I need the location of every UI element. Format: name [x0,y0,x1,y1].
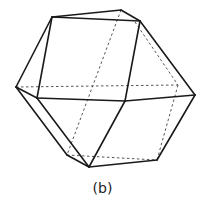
hidden-edges [16,10,178,160]
edge-e-j [37,98,89,167]
figure-caption: (b) [0,180,205,196]
edge-a-d [16,17,52,87]
edge-a-b [52,10,121,17]
edge-b-c [121,10,140,21]
edge-a-c [52,17,140,21]
polyhedron-diagram [0,0,205,205]
edge-c-f [125,21,140,101]
hidden-edge-c-h [135,22,178,85]
visible-edges [16,10,195,167]
edge-c-g [140,21,195,95]
edge-g-k [157,95,195,160]
edge-e-f [37,98,125,101]
edge-a-e [37,17,52,98]
edge-j-k [89,160,157,167]
hidden-edge-d-h [16,85,178,87]
edge-f-g [125,95,195,101]
hidden-edge-b-i [67,10,121,155]
edge-i-j [67,155,89,167]
edge-d-i [16,87,67,155]
